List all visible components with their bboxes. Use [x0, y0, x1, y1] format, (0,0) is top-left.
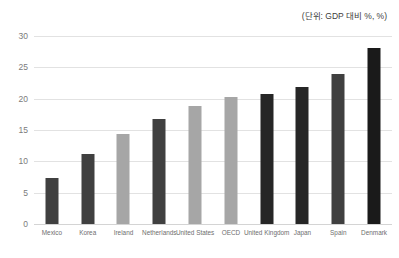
axis-baseline [34, 224, 392, 225]
bar [45, 178, 58, 224]
bar [117, 134, 130, 224]
x-axis-tick-label: Denmark [351, 229, 397, 237]
y-axis-tick-label: 0 [0, 219, 28, 229]
plot-area: 051015202530 MexicoKoreaIrelandNetherlan… [34, 36, 392, 224]
y-axis-tick-label: 15 [0, 125, 28, 135]
bar [296, 87, 309, 224]
chart-unit-annotation: (단위: GDP 대비 %, %) [302, 9, 387, 21]
bar-chart-figure: (단위: GDP 대비 %, %) 051015202530 MexicoKor… [0, 0, 399, 258]
bar [368, 48, 381, 224]
bars-group: MexicoKoreaIrelandNetherlandsUnited Stat… [34, 36, 392, 224]
y-axis-tick-label: 30 [0, 31, 28, 41]
bar [81, 154, 94, 224]
bar-slot: United States [177, 36, 213, 224]
bar-slot: Japan [285, 36, 321, 224]
y-axis-tick-label: 25 [0, 62, 28, 72]
y-axis-tick-label: 20 [0, 94, 28, 104]
bar-slot: Korea [70, 36, 106, 224]
bar [189, 106, 202, 224]
bar [153, 119, 166, 224]
bar [260, 94, 273, 224]
y-axis-tick-label: 10 [0, 156, 28, 166]
bar-slot: Ireland [106, 36, 142, 224]
bar-slot: Mexico [34, 36, 70, 224]
bar [224, 97, 237, 224]
bar-slot: United Kingdom [249, 36, 285, 224]
bar-slot: OECD [213, 36, 249, 224]
bar-slot: Denmark [356, 36, 392, 224]
bar-slot: Netherlands [141, 36, 177, 224]
bar-slot: Spain [320, 36, 356, 224]
bar [332, 74, 345, 224]
y-axis-tick-label: 5 [0, 188, 28, 198]
